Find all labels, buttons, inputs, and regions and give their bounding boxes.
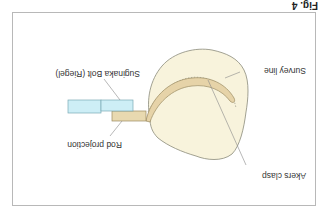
bolt-label: Suginaka Bolt (Riegel) bbox=[55, 69, 140, 79]
akers-clasp-label: Akers clasp bbox=[262, 171, 306, 181]
figure-canvas: Fig. 4 Suginaka Bolt (Riegel) Survey lin… bbox=[0, 0, 324, 216]
diagram-svg: Fig. 4 Suginaka Bolt (Riegel) Survey lin… bbox=[0, 0, 324, 216]
figure-label: Fig. 4 bbox=[291, 0, 318, 11]
rod-projection bbox=[112, 111, 146, 121]
survey-line-label: Survey line bbox=[264, 66, 306, 76]
figure-label-group: Fig. 4 bbox=[291, 0, 318, 11]
bolt-outer-segment bbox=[68, 100, 101, 113]
rod-projection-label: Rod projection bbox=[67, 140, 122, 150]
bolt-inner-segment bbox=[101, 100, 133, 111]
